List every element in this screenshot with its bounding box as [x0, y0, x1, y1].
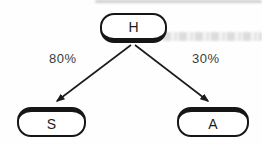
node-s: S	[17, 107, 86, 137]
node-a-label: A	[208, 116, 217, 132]
edge-label-h-to-s: 80%	[49, 51, 77, 66]
node-s-label: S	[47, 116, 56, 132]
node-h-label: H	[128, 19, 138, 35]
node-h: H	[100, 13, 167, 43]
diagram-canvas: H S A 80% 30%	[0, 0, 262, 144]
node-a: A	[177, 107, 249, 137]
edge-label-h-to-a: 30%	[192, 51, 220, 66]
